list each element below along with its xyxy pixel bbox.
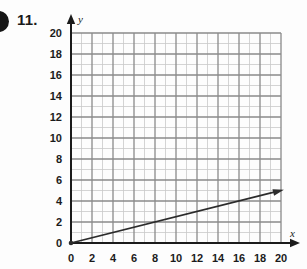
y-tick-4: 4	[56, 195, 63, 207]
y-tick-8: 8	[56, 153, 62, 165]
y-axis-tick-labels: 02468101214161820	[50, 27, 63, 249]
x-tick-12: 12	[191, 252, 203, 264]
x-tick-4: 4	[110, 252, 117, 264]
x-axis-tick-labels: 02468101214161820	[68, 252, 287, 264]
x-tick-10: 10	[170, 252, 182, 264]
axis-names: yx	[77, 13, 295, 239]
y-tick-20: 20	[50, 27, 62, 39]
y-tick-14: 14	[50, 90, 63, 102]
worksheet-page: 11. 02468101214161820 02468101214161820 …	[0, 0, 307, 269]
x-tick-6: 6	[131, 252, 137, 264]
x-tick-16: 16	[233, 252, 245, 264]
x-tick-0: 0	[68, 252, 74, 264]
y-axis-name: y	[77, 13, 83, 25]
x-tick-2: 2	[89, 252, 95, 264]
y-tick-0: 0	[56, 237, 62, 249]
x-axis-name: x	[289, 227, 295, 239]
y-tick-10: 10	[50, 132, 62, 144]
y-tick-16: 16	[50, 69, 62, 81]
y-tick-12: 12	[50, 111, 62, 123]
x-tick-8: 8	[152, 252, 158, 264]
y-tick-6: 6	[56, 174, 62, 186]
x-tick-14: 14	[212, 252, 225, 264]
axes	[67, 14, 300, 247]
x-tick-20: 20	[275, 252, 287, 264]
coordinate-graph: 02468101214161820 02468101214161820 yx	[0, 0, 307, 269]
y-tick-18: 18	[50, 48, 62, 60]
x-tick-18: 18	[254, 252, 266, 264]
y-tick-2: 2	[56, 216, 62, 228]
